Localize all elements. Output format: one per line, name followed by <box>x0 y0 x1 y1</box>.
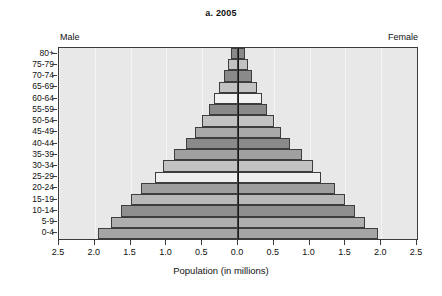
x-axis-tick <box>201 240 202 245</box>
y-axis-tick-label: 35-39 <box>0 150 54 159</box>
y-axis-tick-label: 0-4 <box>0 228 54 237</box>
y-axis-tick <box>52 86 57 87</box>
y-axis-tick-label: 45-49 <box>0 127 54 136</box>
bar-male <box>131 194 238 205</box>
x-axis-tick <box>165 240 166 245</box>
x-axis-tick-label: 0.0 <box>217 247 257 257</box>
y-axis-tick-label: 60-64 <box>0 94 54 103</box>
chart-root: a. 2005 Male Female 80+75-7970-7465-6960… <box>0 0 442 296</box>
y-axis-tick <box>52 187 57 188</box>
y-axis-tick <box>52 120 57 121</box>
bar-female <box>238 138 290 149</box>
chart-title: a. 2005 <box>0 8 442 18</box>
x-axis-title: Population (in millions) <box>0 265 442 276</box>
bar-male <box>163 160 238 171</box>
bar-male <box>209 104 238 115</box>
bar-female <box>238 70 252 81</box>
bar-female <box>238 217 365 228</box>
x-axis-ticks <box>58 240 418 246</box>
bar-male <box>202 115 238 126</box>
bar-female <box>238 183 335 194</box>
bar-male <box>228 59 238 70</box>
y-axis-labels: 80+75-7970-7465-6960-6455-5950-5445-4940… <box>0 47 54 240</box>
x-axis-tick-label: 2.0 <box>74 247 114 257</box>
y-axis-tick-label: 30-34 <box>0 161 54 170</box>
x-axis-tick-label: 2.5 <box>396 247 436 257</box>
y-axis-tick <box>52 199 57 200</box>
x-axis-tick <box>344 240 345 245</box>
x-axis-tick <box>237 240 238 245</box>
bar-male <box>98 228 238 239</box>
y-axis-tick <box>52 210 57 211</box>
y-axis-tick <box>52 143 57 144</box>
bar-male <box>219 82 238 93</box>
x-axis-tick-label: 1.0 <box>145 247 185 257</box>
y-axis-tick <box>52 64 57 65</box>
bar-female <box>238 149 302 160</box>
x-axis-tick <box>273 240 274 245</box>
bar-female <box>238 127 281 138</box>
gridline <box>417 48 418 239</box>
x-axis-tick-label: 2.5 <box>38 247 78 257</box>
y-axis-tick-label: 50-54 <box>0 116 54 125</box>
y-axis-tick-label: 20-24 <box>0 183 54 192</box>
bar-male <box>155 172 238 183</box>
bar-female <box>238 59 248 70</box>
y-axis-tick <box>52 221 57 222</box>
x-axis-tick <box>58 240 59 245</box>
x-axis-tick <box>94 240 95 245</box>
x-axis-tick-label: 1.0 <box>289 247 329 257</box>
bar-female <box>238 93 262 104</box>
bar-female <box>238 172 321 183</box>
x-axis-tick-label: 0.5 <box>253 247 293 257</box>
bar-female <box>238 205 355 216</box>
y-axis-tick-label: 15-19 <box>0 195 54 204</box>
y-axis-tick <box>52 75 57 76</box>
y-axis-tick-label: 55-59 <box>0 105 54 114</box>
x-axis-tick <box>130 240 131 245</box>
bar-female <box>238 194 345 205</box>
y-axis-tick-label: 65-69 <box>0 82 54 91</box>
bar-male <box>111 217 238 228</box>
female-side-label: Female <box>388 32 418 42</box>
x-axis-tick-label: 1.5 <box>110 247 150 257</box>
y-axis-tick-label: 5-9 <box>0 217 54 226</box>
y-axis-tick-label: 70-74 <box>0 71 54 80</box>
y-axis-tick-label: 25-29 <box>0 172 54 181</box>
y-axis-tick <box>52 232 57 233</box>
x-axis-tick <box>380 240 381 245</box>
x-axis-tick <box>416 240 417 245</box>
bar-male <box>214 93 238 104</box>
x-axis-tick <box>309 240 310 245</box>
bar-male <box>174 149 238 160</box>
y-axis-tick <box>52 109 57 110</box>
y-axis-tick <box>52 176 57 177</box>
y-axis-tick-label: 80+ <box>0 49 54 58</box>
male-side-label: Male <box>60 32 80 42</box>
y-axis-tick-label: 75-79 <box>0 60 54 69</box>
plot-area <box>58 47 418 240</box>
y-axis-tick <box>52 154 57 155</box>
y-axis-tick <box>52 53 57 54</box>
bar-male <box>231 48 238 59</box>
bar-male <box>121 205 238 216</box>
bar-female <box>238 48 245 59</box>
bar-female <box>238 160 313 171</box>
x-axis-labels: 2.52.01.51.00.50.00.51.01.52.02.5 <box>0 247 442 261</box>
x-axis-tick-label: 1.5 <box>324 247 364 257</box>
y-axis-tick <box>52 165 57 166</box>
y-axis-tick <box>52 131 57 132</box>
bar-female <box>238 228 378 239</box>
bar-male <box>224 70 238 81</box>
y-axis-tick <box>52 98 57 99</box>
bar-male <box>186 138 238 149</box>
bar-female <box>238 104 267 115</box>
bar-male <box>195 127 238 138</box>
y-axis-tick-label: 40-44 <box>0 139 54 148</box>
y-axis-tick-label: 10-14 <box>0 206 54 215</box>
x-axis-tick-label: 0.5 <box>181 247 221 257</box>
bar-female <box>238 82 257 93</box>
center-axis-line <box>238 48 239 239</box>
x-axis-tick-label: 2.0 <box>360 247 400 257</box>
bar-male <box>141 183 238 194</box>
